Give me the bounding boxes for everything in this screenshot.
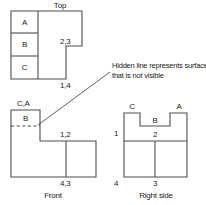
right-view-label-a: A <box>176 103 181 111</box>
right-view-label-b: B <box>152 117 157 125</box>
top-view-label-c: C <box>22 64 28 72</box>
annotation-line-2: that is not visible <box>112 71 164 80</box>
drawing-canvas: Top A B C 2,3 1,4 C,A B 1,2 4,3 Front C … <box>0 0 206 205</box>
top-view-label-a: A <box>22 19 27 27</box>
front-view-point-43: 4,3 <box>60 180 71 188</box>
hidden-line-annotation: Hidden line represents surface that is n… <box>112 61 206 80</box>
right-view-title: Right side <box>139 192 173 200</box>
right-view-point-3: 3 <box>153 180 157 188</box>
annotation-line-1: Hidden line represents surface <box>112 61 206 70</box>
front-view-label-b: B <box>23 115 28 123</box>
front-view-label-ca: C,A <box>17 100 30 108</box>
top-view-title: Top <box>54 2 66 10</box>
top-view-point-14: 1,4 <box>60 82 71 90</box>
annotation-leader-line <box>38 72 110 125</box>
right-view-point-4: 4 <box>114 180 118 188</box>
right-view-point-2: 2 <box>153 131 157 139</box>
right-view-point-1: 1 <box>114 130 118 138</box>
multiview-drawing-svg <box>0 0 206 205</box>
top-view-label-b: B <box>22 41 27 49</box>
front-view-point-12: 1,2 <box>60 131 71 139</box>
front-view-title: Front <box>44 192 62 200</box>
top-view-point-23: 2,3 <box>60 38 71 46</box>
right-view-label-c: C <box>129 103 135 111</box>
